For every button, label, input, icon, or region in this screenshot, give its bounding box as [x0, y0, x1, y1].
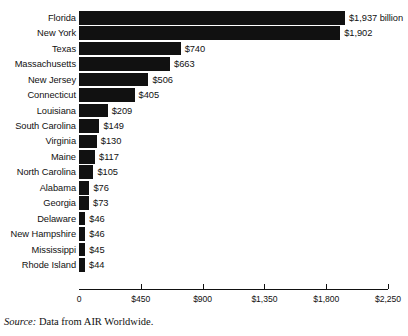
- category-label: Georgia: [0, 198, 76, 208]
- chart-bar: [79, 26, 340, 40]
- category-label: Texas: [0, 44, 76, 54]
- category-label: Maine: [0, 152, 76, 162]
- bar-value-label: $76: [93, 183, 108, 193]
- chart-figure: Florida$1,937 billionNew York$1,902Texas…: [0, 0, 408, 336]
- axis-tick: [141, 284, 142, 289]
- source-note: Source: Data from AIR Worldwide.: [4, 316, 153, 328]
- bar-wrapper: [79, 119, 99, 133]
- bar-value-label: $740: [185, 44, 205, 54]
- bar-value-label: $149: [103, 121, 123, 131]
- axis-tick-label: $900: [193, 294, 212, 304]
- bar-value-label: $105: [97, 167, 117, 177]
- bar-wrapper: [79, 181, 89, 195]
- chart-row: North Carolina$105: [0, 165, 408, 180]
- axis-tick: [203, 284, 204, 289]
- bar-wrapper: [79, 150, 95, 164]
- bar-wrapper: [79, 196, 89, 210]
- bar-value-label: $44: [89, 260, 104, 270]
- chart-row: Alabama$76: [0, 180, 408, 195]
- bar-wrapper: [79, 57, 170, 71]
- category-label: New York: [0, 28, 76, 38]
- category-label: Alabama: [0, 183, 76, 193]
- source-label: Source:: [4, 316, 36, 327]
- chart-row: Massachusetts$663: [0, 56, 408, 71]
- bar-value-label: $405: [139, 90, 159, 100]
- bar-wrapper: [79, 104, 108, 118]
- plot-area: Florida$1,937 billionNew York$1,902Texas…: [0, 0, 408, 292]
- chart-row: New Jersey$506: [0, 72, 408, 87]
- bar-value-label: $506: [152, 75, 172, 85]
- category-label: Florida: [0, 13, 76, 23]
- category-label: Rhode Island: [0, 260, 76, 270]
- chart-row: Louisiana$209: [0, 103, 408, 118]
- x-axis-line: [79, 289, 388, 290]
- category-label: Mississippi: [0, 245, 76, 255]
- chart-row: Virginia$130: [0, 134, 408, 149]
- bar-value-label: $1,937 billion: [349, 13, 403, 23]
- axis-tick: [264, 284, 265, 289]
- bar-wrapper: [79, 258, 85, 272]
- category-label: New Hampshire: [0, 229, 76, 239]
- chart-bar: [79, 73, 148, 87]
- chart-bar: [79, 196, 89, 210]
- chart-row: South Carolina$149: [0, 118, 408, 133]
- chart-row: Rhode Island$44: [0, 257, 408, 272]
- chart-row: Maine$117: [0, 149, 408, 164]
- category-label: Connecticut: [0, 90, 76, 100]
- category-label: Virginia: [0, 136, 76, 146]
- axis-tick-label: $1,800: [313, 294, 339, 304]
- chart-row: Texas$740: [0, 41, 408, 56]
- bar-value-label: $1,902: [344, 28, 372, 38]
- chart-bar: [79, 88, 135, 102]
- bar-value-label: $73: [93, 198, 108, 208]
- bar-value-label: $45: [89, 245, 104, 255]
- chart-row: New York$1,902: [0, 26, 408, 41]
- chart-row: Florida$1,937 billion: [0, 10, 408, 25]
- chart-bar: [79, 212, 85, 226]
- chart-row: Delaware$46: [0, 211, 408, 226]
- chart-bar: [79, 135, 97, 149]
- category-label: New Jersey: [0, 75, 76, 85]
- category-label: Louisiana: [0, 106, 76, 116]
- chart-bar: [79, 165, 93, 179]
- bar-wrapper: [79, 243, 85, 257]
- bar-wrapper: [79, 42, 181, 56]
- bar-wrapper: [79, 11, 345, 25]
- bar-value-label: $209: [112, 106, 132, 116]
- chart-bar: [79, 258, 85, 272]
- chart-row: Georgia$73: [0, 196, 408, 211]
- bar-wrapper: [79, 227, 85, 241]
- chart-bar: [79, 104, 108, 118]
- axis-tick: [326, 284, 327, 289]
- chart-row: New Hampshire$46: [0, 226, 408, 241]
- chart-bar: [79, 227, 85, 241]
- chart-row: Mississippi$45: [0, 242, 408, 257]
- bar-wrapper: [79, 88, 135, 102]
- chart-bar: [79, 150, 95, 164]
- axis-tick-label: $450: [131, 294, 150, 304]
- bar-wrapper: [79, 165, 93, 179]
- axis-tick-label: 0: [77, 294, 82, 304]
- chart-bar: [79, 181, 89, 195]
- axis-tick-label: $2,250: [375, 294, 401, 304]
- chart-row: Connecticut$405: [0, 87, 408, 102]
- category-label: Massachusetts: [0, 59, 76, 69]
- bar-wrapper: [79, 73, 148, 87]
- source-text: Data from AIR Worldwide.: [36, 316, 153, 327]
- bar-value-label: $46: [89, 214, 104, 224]
- bar-value-label: $46: [89, 229, 104, 239]
- bar-wrapper: [79, 26, 340, 40]
- bar-wrapper: [79, 212, 85, 226]
- category-label: North Carolina: [0, 167, 76, 177]
- chart-bar: [79, 42, 181, 56]
- axis-tick: [388, 284, 389, 289]
- axis-tick-label: $1,350: [251, 294, 277, 304]
- bar-value-label: $663: [174, 59, 194, 69]
- bar-value-label: $117: [99, 152, 119, 162]
- chart-bar: [79, 243, 85, 257]
- category-label: South Carolina: [0, 121, 76, 131]
- chart-bar: [79, 119, 99, 133]
- bar-value-label: $130: [101, 136, 121, 146]
- chart-bar: [79, 11, 345, 25]
- category-label: Delaware: [0, 214, 76, 224]
